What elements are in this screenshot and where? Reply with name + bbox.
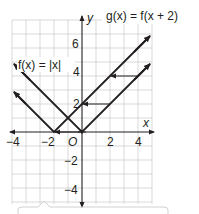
y-tick-neg2: −2 [64,154,78,168]
x-tick-neg2: −2 [41,135,55,149]
g-label: g(x) = f(x + 2) [106,9,178,23]
y-tick-4: 4 [73,65,80,79]
callout-outline [18,201,168,214]
axes [10,16,154,207]
f-label: f(x) = |x| [18,58,61,72]
x-tick-2: 2 [107,135,114,149]
coordinate-graph: f(x) = |x| g(x) = f(x + 2) y x O −4 −2 2… [0,0,199,214]
x-tick-neg4: −4 [6,135,20,149]
y-tick-6: 6 [72,37,79,51]
x-axis-label: x [142,116,150,130]
y-axis-label: y [86,11,94,25]
y-tick-neg4: −4 [64,183,78,197]
x-tick-4: 4 [135,135,142,149]
y-tick-2: 2 [73,97,80,111]
origin-label: O [68,135,77,149]
